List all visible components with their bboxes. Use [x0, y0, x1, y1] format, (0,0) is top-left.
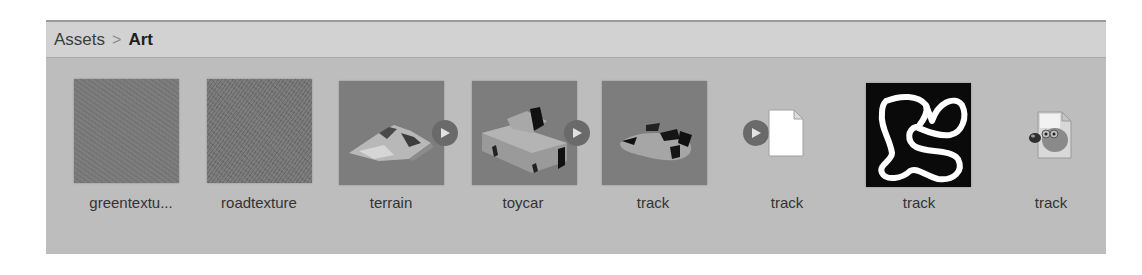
asset-label: track [854, 194, 984, 211]
asset-item-toycar[interactable]: toycar [456, 58, 586, 254]
asset-item-track-gimp[interactable]: track [986, 58, 1116, 254]
breadcrumb-separator: > [112, 31, 121, 49]
gimp-file-icon [1028, 110, 1074, 164]
play-triangle-icon [571, 127, 583, 139]
asset-item-roadtexture[interactable]: roadtexture [194, 58, 324, 254]
breadcrumb-art[interactable]: Art [128, 30, 153, 50]
track-model-thumbnail [602, 81, 707, 185]
asset-label: greentextu... [66, 194, 196, 211]
asset-item-terrain[interactable]: terrain [324, 58, 454, 254]
asset-grid: greentextu... roadtexture terrain [46, 58, 1106, 254]
toycar-model-thumbnail [472, 81, 577, 185]
asset-label: track [722, 194, 852, 211]
asset-label: track [986, 194, 1116, 211]
terrain-model-thumbnail [339, 81, 444, 185]
blank-document-icon [767, 108, 805, 162]
play-triangle-icon [439, 127, 451, 139]
asset-item-greentexture[interactable]: greentextu... [66, 58, 196, 254]
asset-label: terrain [326, 194, 456, 211]
asset-item-track-model[interactable]: track [586, 58, 716, 254]
asset-item-track-image[interactable]: track [852, 58, 982, 254]
asset-item-track-file[interactable]: track [722, 58, 852, 254]
project-assets-panel: Assets > Art greentextu... roadtexture [46, 20, 1106, 254]
track-image-thumbnail [866, 83, 971, 187]
road-texture-thumbnail [207, 79, 312, 183]
asset-label: toycar [458, 194, 588, 211]
asset-label: roadtexture [194, 194, 324, 211]
breadcrumb: Assets > Art [46, 22, 1106, 58]
breadcrumb-assets[interactable]: Assets [54, 30, 105, 50]
green-texture-thumbnail [74, 79, 179, 183]
asset-label: track [588, 194, 718, 211]
expand-terrain-button[interactable] [432, 120, 458, 146]
